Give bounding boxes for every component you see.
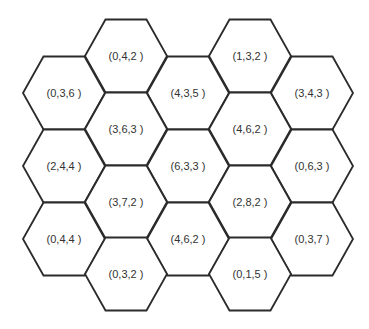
- hex-label: (0,3,6 ): [47, 87, 82, 99]
- hex-label: (6,3,3 ): [171, 160, 206, 172]
- hex-label: (3,6,3 ): [109, 123, 144, 135]
- hex-cells: (0,4,2 )(1,3,2 )(0,3,6 )(4,3,5 )(3,4,3 )…: [23, 20, 353, 311]
- hex-label: (0,1,5 ): [233, 268, 268, 280]
- hex-label: (0,3,7 ): [295, 233, 330, 245]
- hexagon-grid-diagram: (0,4,2 )(1,3,2 )(0,3,6 )(4,3,5 )(3,4,3 )…: [0, 0, 369, 329]
- hex-label: (1,3,2 ): [233, 50, 268, 62]
- hex-label: (0,3,2 ): [109, 268, 144, 280]
- hex-label: (0,4,4 ): [47, 233, 82, 245]
- hex-label: (0,6,3 ): [295, 160, 330, 172]
- hex-label: (2,8,2 ): [233, 196, 268, 208]
- hex-label: (3,4,3 ): [295, 87, 330, 99]
- hex-label: (0,4,2 ): [109, 50, 144, 62]
- hex-label: (3,7,2 ): [109, 196, 144, 208]
- hex-label: (2,4,4 ): [47, 160, 82, 172]
- hex-label: (4,6,2 ): [233, 123, 268, 135]
- hex-label: (4,6,2 ): [171, 233, 206, 245]
- hex-label: (4,3,5 ): [171, 87, 206, 99]
